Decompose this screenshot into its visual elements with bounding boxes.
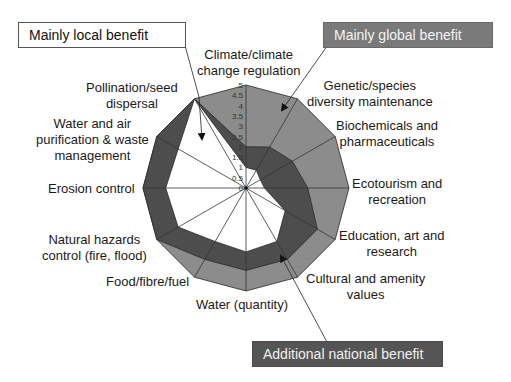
national-benefit-callout: Additional national benefit [252,341,443,367]
axis-label: Cultural and amenity values [306,271,425,303]
radial-tick-label: 1.5 [232,153,244,162]
axis-label: Education, art and research [339,228,445,260]
global-benefit-callout: Mainly global benefit [323,22,493,48]
radial-tick-label: 1 [239,163,244,172]
axis-label: Ecotourism and recreation [352,176,442,208]
radial-tick-label: 2 [239,143,244,152]
radial-tick-label: 2.5 [232,133,244,142]
radial-tick-label: 5 [239,81,244,90]
axis-label: Pollination/seed dispersal [86,80,178,112]
radial-tick-label: 3 [239,122,244,131]
axis-label: Water and air purification & waste manag… [36,116,149,164]
axis-label: Erosion control [48,181,135,197]
global-benefit-callout-text: Mainly global benefit [334,27,462,43]
axis-label: Climate/climate change regulation [197,47,300,79]
axis-label: Food/fibre/fuel [106,274,189,290]
axis-label: Biochemicals and pharmaceuticals [336,118,438,150]
radial-axes [143,85,349,291]
radial-tick-label: 0.5 [232,174,244,183]
local-benefit-callout-text: Mainly local benefit [29,27,148,43]
chart-center [244,186,248,190]
radial-tick-label: 4.5 [232,91,244,100]
axis-label: Water (quantity) [196,297,288,313]
radial-tick-labels: 00.511.522.533.544.55 [232,81,244,193]
radial-tick-label: 0 [239,184,244,193]
national-benefit-callout-text: Additional national benefit [263,346,423,362]
radial-tick-label: 3.5 [232,112,244,121]
axis-label: Genetic/species diversity maintenance [307,78,433,110]
radial-tick-label: 4 [239,102,244,111]
local-benefit-callout: Mainly local benefit [18,22,186,48]
axis-label: Natural hazards control (fire, flood) [42,232,147,264]
